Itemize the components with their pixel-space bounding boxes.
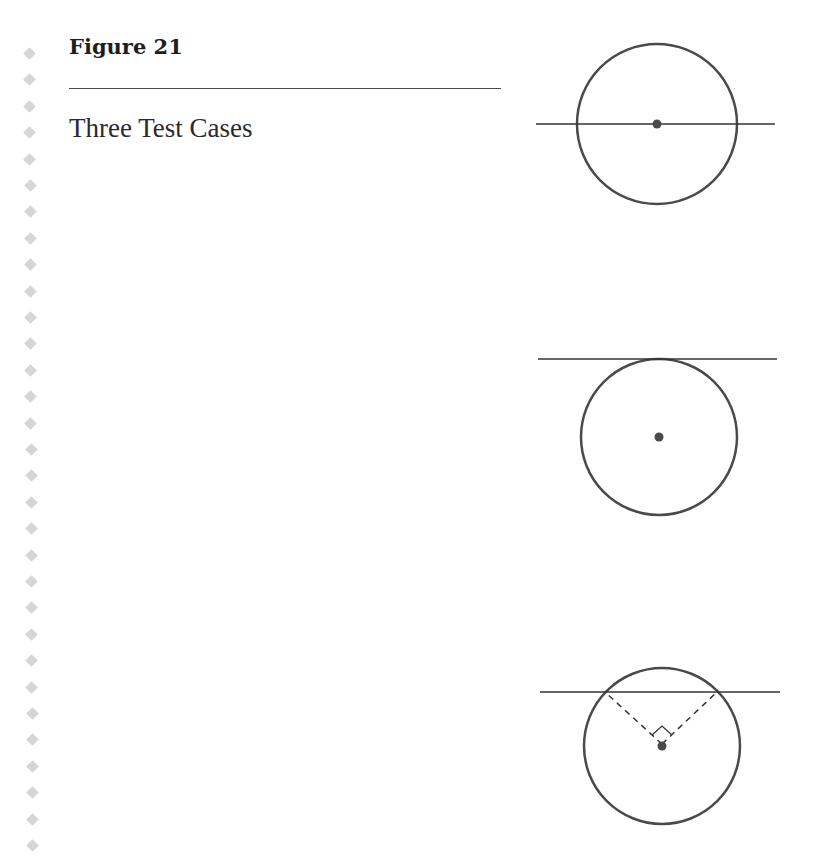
right-angle-marker (652, 726, 672, 735)
dashed-radius-left (605, 692, 662, 744)
case-1-line-through-center (536, 44, 775, 204)
case-2-tangent-line (538, 359, 777, 515)
test-cases-diagram (0, 0, 815, 858)
case-3-secant-line (540, 668, 780, 824)
dashed-radius-right (662, 692, 717, 744)
center-dot (658, 742, 667, 751)
center-dot (653, 120, 662, 129)
center-dot (655, 433, 664, 442)
